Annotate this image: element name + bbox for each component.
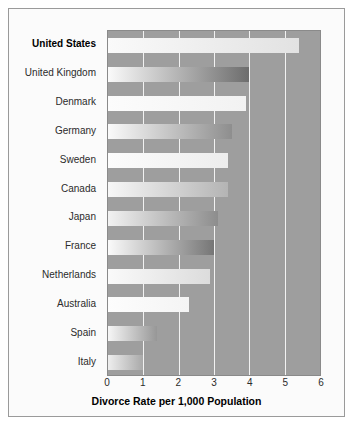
category-label-text: Germany (55, 126, 96, 136)
bar[interactable] (108, 67, 249, 82)
bar-row (108, 290, 320, 319)
bar[interactable] (108, 38, 299, 53)
bar-row (108, 204, 320, 233)
plot-area (107, 30, 321, 376)
bar[interactable] (108, 124, 232, 139)
bar-row (108, 319, 320, 348)
category-label-denmark: Denmark (9, 88, 103, 117)
category-label-text: Spain (70, 328, 96, 338)
bar-row (108, 262, 320, 291)
category-label-japan: Japan (9, 203, 103, 232)
bar[interactable] (108, 297, 189, 312)
category-label-netherlands: Netherlands (9, 261, 103, 290)
bar[interactable] (108, 211, 218, 226)
category-label-text: Denmark (55, 97, 96, 107)
category-label-text: Japan (69, 212, 96, 222)
bar-series (108, 31, 320, 375)
bar-row (108, 60, 320, 89)
category-label-text: Australia (57, 299, 96, 309)
category-label-france: France (9, 232, 103, 261)
category-label-text: Canada (61, 184, 96, 194)
category-label-sweden: Sweden (9, 145, 103, 174)
x-tick-5: 5 (283, 378, 289, 388)
category-label-australia: Australia (9, 289, 103, 318)
bar-row (108, 89, 320, 118)
x-tick-0: 0 (104, 378, 110, 388)
category-label-text: Italy (78, 357, 96, 367)
bar-row (108, 233, 320, 262)
x-tick-4: 4 (247, 378, 253, 388)
category-label-canada: Canada (9, 174, 103, 203)
category-label-spain: Spain (9, 318, 103, 347)
category-label-text: United Kingdom (25, 68, 96, 78)
bar-row (108, 31, 320, 60)
category-label-united-kingdom: United Kingdom (9, 59, 103, 88)
bar[interactable] (108, 153, 228, 168)
category-label-text: United States (32, 39, 96, 49)
bar[interactable] (108, 269, 210, 284)
x-axis-title: Divorce Rate per 1,000 Population (9, 395, 344, 407)
category-axis-labels: United StatesUnited KingdomDenmarkGerman… (9, 30, 103, 376)
bar[interactable] (108, 326, 157, 341)
bar[interactable] (108, 182, 228, 197)
category-label-text: Netherlands (42, 270, 96, 280)
category-label-united-states: United States (9, 30, 103, 59)
category-label-germany: Germany (9, 116, 103, 145)
x-tick-2: 2 (176, 378, 182, 388)
bar-row (108, 348, 320, 377)
category-label-text: Sweden (60, 155, 96, 165)
x-tick-1: 1 (140, 378, 146, 388)
bar[interactable] (108, 240, 214, 255)
category-label-italy: Italy (9, 347, 103, 376)
x-tick-6: 6 (318, 378, 324, 388)
bar-row (108, 175, 320, 204)
x-axis-tick-labels: 0123456 (107, 378, 321, 391)
category-label-text: France (65, 241, 96, 251)
bar[interactable] (108, 355, 143, 370)
bar[interactable] (108, 96, 246, 111)
chart-figure: United StatesUnited KingdomDenmarkGerman… (8, 8, 345, 417)
bar-row (108, 146, 320, 175)
bar-row (108, 117, 320, 146)
x-tick-3: 3 (211, 378, 217, 388)
